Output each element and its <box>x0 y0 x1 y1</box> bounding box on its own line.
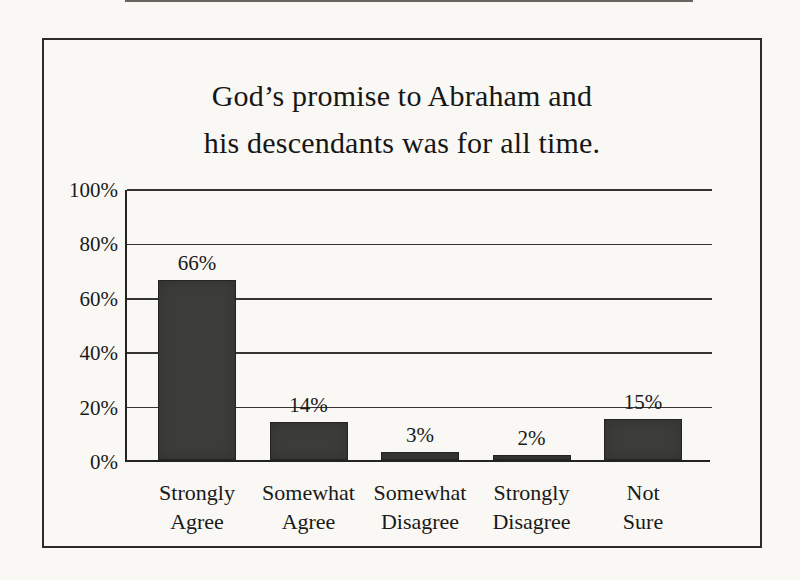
bar-value-label-4: 2% <box>518 427 546 449</box>
x-axis-label-5: Not Sure <box>568 478 718 536</box>
y-axis-label-0: 0% <box>38 451 118 473</box>
bar-4 <box>493 455 571 460</box>
bar-1 <box>158 280 236 460</box>
plot-area: 0%20%40%60%80%100%66%Strongly Agree14%So… <box>125 190 710 462</box>
bar-value-label-5: 15% <box>624 391 663 413</box>
bar-3 <box>381 452 459 460</box>
gridline-100 <box>127 189 712 191</box>
bar-value-label-2: 14% <box>289 394 328 416</box>
bar-5 <box>604 419 682 460</box>
y-axis-label-20: 20% <box>38 397 118 419</box>
bar-2 <box>270 422 348 460</box>
chart-title-line-1: God’s promise to Abraham and <box>42 72 762 119</box>
y-axis-label-80: 80% <box>38 233 118 255</box>
scanned-page: God’s promise to Abraham and his descend… <box>0 0 800 580</box>
y-axis-label-40: 40% <box>38 342 118 364</box>
gridline-80 <box>127 244 712 246</box>
chart-title-line-2: his descendants was for all time. <box>42 119 762 166</box>
bar-value-label-1: 66% <box>178 252 217 274</box>
y-axis-label-60: 60% <box>38 288 118 310</box>
scan-artifact-line <box>125 0 693 2</box>
y-axis-label-100: 100% <box>38 179 118 201</box>
chart-title: God’s promise to Abraham and his descend… <box>42 72 762 166</box>
bar-value-label-3: 3% <box>406 424 434 446</box>
